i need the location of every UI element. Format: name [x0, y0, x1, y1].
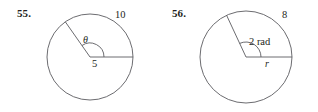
angle-label-2rad-56: 2 rad [249, 36, 270, 47]
arc-length-label-56: 8 [282, 9, 287, 20]
radius-label-r-56: r [265, 58, 269, 69]
circle-diagram-55 [0, 0, 159, 112]
angled-radius-line-56 [227, 15, 246, 57]
circle-diagram-56 [159, 0, 318, 112]
angle-label-theta-55: θ [83, 34, 88, 45]
radius-label-55: 5 [92, 58, 97, 69]
figure-56: 56. 8 2 rad r [159, 0, 318, 112]
arc-length-label-55: 10 [115, 9, 126, 20]
geometry-exercise-figures: 55. 10 5 θ 56. 8 2 rad [0, 0, 318, 112]
figure-55: 55. 10 5 θ [0, 0, 159, 112]
